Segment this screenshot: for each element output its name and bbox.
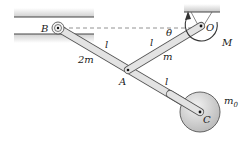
label-m0: m0 <box>224 95 238 109</box>
label-theta: θ <box>166 27 172 38</box>
label-2m: 2m <box>77 54 94 65</box>
label-m-bar: m <box>163 51 172 62</box>
pin-a <box>127 69 130 72</box>
pin-b <box>52 22 64 34</box>
bar-oa <box>128 26 201 70</box>
ceiling-support <box>184 4 220 25</box>
label-l-bar-ba: l <box>105 39 108 50</box>
label-l-bar-oa: l <box>150 37 153 48</box>
label-b: B <box>40 23 48 34</box>
label-a: A <box>118 76 126 87</box>
label-o: O <box>206 22 214 33</box>
disk-c <box>170 92 220 132</box>
label-c: C <box>203 114 211 125</box>
pin-o <box>200 25 203 28</box>
label-m-moment: M <box>221 37 233 48</box>
mechanism-diagram: B O M θ l l 2m m A l C m0 <box>0 0 247 143</box>
label-l-bar-ac: l <box>165 76 168 87</box>
